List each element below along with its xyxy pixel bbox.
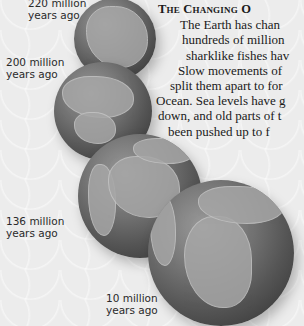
- body-line: down, and old parts of t: [158, 108, 304, 123]
- label-line: 10 million: [106, 292, 158, 304]
- label-line: years ago: [28, 9, 86, 21]
- label-line: years ago: [6, 68, 64, 80]
- label-line: 200 million: [6, 56, 64, 68]
- americas-landmass: [150, 194, 176, 266]
- label-10-million: 10 million years ago: [106, 292, 158, 316]
- body-line: sharklike fishes hav: [186, 48, 304, 63]
- label-200-million: 200 million years ago: [6, 56, 64, 80]
- body-line: Slow movements of: [178, 63, 304, 78]
- article-text: The Changing O The Earth has chan hundre…: [172, 0, 304, 139]
- label-220-million: 220 million years ago: [28, 0, 86, 21]
- body-line: hundreds of million: [182, 32, 304, 47]
- pangaea-landmass: [86, 6, 148, 68]
- body-line: split them apart to for: [170, 78, 304, 93]
- label-line: years ago: [106, 304, 158, 316]
- globe-10-million: [148, 180, 294, 326]
- article-title: The Changing O: [158, 2, 304, 17]
- label-136-million: 136 million years ago: [6, 215, 64, 239]
- label-line: years ago: [6, 227, 64, 239]
- label-line: 136 million: [6, 215, 64, 227]
- label-line: 220 million: [28, 0, 86, 9]
- landmass: [74, 112, 116, 144]
- body-line: Ocean. Sea levels have g: [156, 93, 304, 108]
- body-line: The Earth has chan: [180, 17, 304, 32]
- africa-landmass: [184, 216, 252, 308]
- body-line: been pushed up to f: [168, 124, 304, 139]
